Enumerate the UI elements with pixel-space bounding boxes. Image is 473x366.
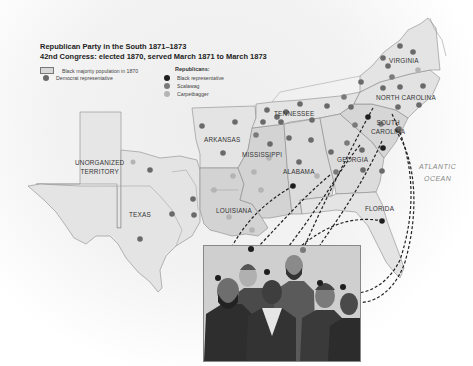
state-label-texas: TEXAS (129, 210, 151, 219)
state-label-tennessee: TENNESSEE (274, 109, 315, 118)
state-label-alabama: ALABAMA (283, 167, 315, 176)
state-label-florida: FLORIDA (365, 204, 394, 213)
republicans-heading: Republicans: (175, 66, 210, 72)
legend-item-black-rep: Black representative (164, 75, 224, 81)
state-label-arkansas: ARKANSAS (204, 135, 240, 144)
democrat-dot-icon (43, 75, 49, 81)
scalawag-dot-icon (164, 83, 170, 89)
state-label-virginia: VIRGINIA (389, 56, 419, 65)
legend-subtitle: 42nd Congress: elected 1870, served Marc… (40, 52, 267, 61)
legend-item-scalawag: Scalawag (164, 83, 200, 89)
carpetbagger-dot-icon (164, 91, 170, 97)
legend-item-carpetbagger: Carpetbagger (164, 91, 209, 97)
legend-item-black-majority: Black majority population in 1870 (40, 67, 138, 74)
black-rep-dot-icon (164, 75, 170, 81)
state-label-north-carolina: NORTH CAROLINA (376, 93, 436, 102)
state-label-louisiana: LOUISIANA (216, 206, 252, 215)
state-label-south-carolina: SOUTH CAROLINA (371, 118, 405, 136)
portrait-inset (203, 245, 361, 362)
legend-item-democrat: Democrat representative (43, 75, 113, 81)
state-label-georgia: GEORGIA (337, 155, 368, 164)
black-majority-swatch (40, 67, 54, 74)
black-congressmen-portrait (204, 246, 360, 361)
state-label-unorganized-territory: UNORGANIZED TERRITORY (75, 158, 124, 176)
legend-title: Republican Party in the South 1871–1873 (40, 42, 186, 51)
ocean-label-atlantic: ATLANTIC OCEAN (419, 161, 456, 185)
state-label-mississippi: MISSISSIPPI (242, 150, 282, 159)
